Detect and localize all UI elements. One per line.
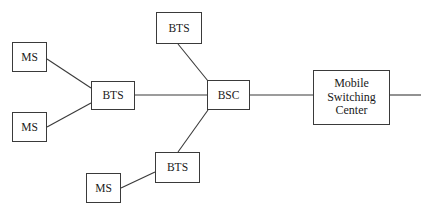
- node-bts-left[interactable]: BTS: [91, 81, 135, 110]
- node-label-bts-left: BTS: [102, 89, 123, 102]
- node-label-ms-bottom: MS: [95, 182, 112, 195]
- node-ms-bottom-left[interactable]: MS: [12, 112, 47, 142]
- node-bts-top[interactable]: BTS: [156, 12, 202, 44]
- edge-ms-top-left-to-bts-left: [47, 59, 91, 88]
- edge-ms-bottom-left-to-bts-left: [47, 103, 91, 127]
- edge-ms-bottom-to-bts-bottom: [121, 172, 155, 188]
- node-label-bts-top: BTS: [168, 22, 189, 35]
- node-bsc[interactable]: BSC: [207, 80, 250, 110]
- node-msc[interactable]: Mobile Switching Center: [313, 70, 390, 125]
- edge-bts-top-to-bsc: [178, 44, 208, 81]
- node-label-bts-bottom: BTS: [167, 161, 188, 174]
- network-diagram: MSMSMSBTSBTSBTSBSCMobile Switching Cente…: [0, 0, 428, 219]
- node-label-ms-bottom-left: MS: [21, 121, 38, 134]
- node-bts-bottom[interactable]: BTS: [155, 152, 200, 183]
- node-ms-bottom[interactable]: MS: [86, 173, 121, 203]
- edge-bts-bottom-to-bsc: [178, 110, 208, 152]
- node-label-ms-top-left: MS: [21, 51, 38, 64]
- node-ms-top-left[interactable]: MS: [12, 42, 47, 72]
- node-label-msc: Mobile Switching Center: [327, 77, 376, 117]
- node-label-bsc: BSC: [218, 89, 240, 102]
